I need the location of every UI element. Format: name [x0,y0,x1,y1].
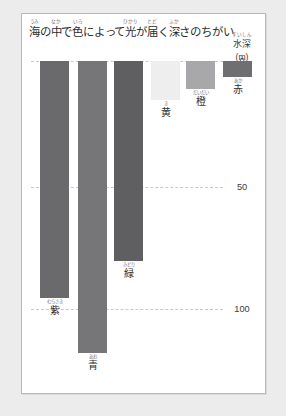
bar-label-wrap: あか赤 [233,85,243,95]
y-tick-label: 100 [224,304,260,314]
bar-orange [186,61,215,89]
chart-card: うみ海のなか中でいろ色によってひかり光がとど届くふか深さのちがい すいしん水深 … [21,13,266,394]
bar-purple [40,61,69,298]
bar-label-yellow: き黄 [151,108,181,118]
bar-label-orange: だいだい橙 [186,97,216,107]
bar-label-ruby: あか [234,79,242,83]
bar-label-green: みどり緑 [114,269,144,279]
bar-label-ruby: だいだい [193,91,209,95]
bar-label-wrap: あお青 [88,361,98,371]
bar-yellow [151,61,180,100]
bar-label-blue: あお青 [78,361,108,371]
y-tick-label: 50 [224,182,260,192]
bar-label-ruby: き [164,102,168,106]
bar-label-text: 黄 [161,107,171,118]
bar-red [223,61,252,77]
bar-label-ruby: あお [89,355,97,359]
bar-label-ruby: むらさき [47,300,63,304]
bar-label-text: 緑 [124,268,134,279]
bar-label-text: 紫 [50,305,60,316]
bar-label-text: 青 [88,360,98,371]
bar-label-wrap: だいだい橙 [196,97,206,107]
bar-green [114,61,143,261]
plot-area: 050100むらさき紫あお青みどり緑き黄だいだい橙あか赤 [22,14,265,393]
bar-blue [78,61,107,353]
bar-label-ruby: みどり [123,263,135,267]
bar-label-text: 赤 [233,84,243,95]
bar-label-wrap: むらさき紫 [50,306,60,316]
bar-label-text: 橙 [196,96,206,107]
bar-label-wrap: き黄 [161,108,171,118]
bar-label-red: あか赤 [223,85,253,95]
bar-label-purple: むらさき紫 [40,306,70,316]
bar-label-wrap: みどり緑 [124,269,134,279]
